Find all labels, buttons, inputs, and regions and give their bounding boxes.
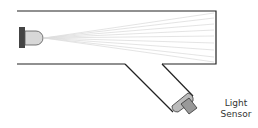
led-dome xyxy=(25,31,43,45)
label-line1: Light xyxy=(216,98,256,109)
light-beam xyxy=(44,13,214,62)
label-line2: Sensor xyxy=(216,109,256,120)
light-sensor xyxy=(172,93,197,114)
led-base xyxy=(19,27,25,48)
led-emitter xyxy=(19,27,43,48)
light-sensor-label: Light Sensor xyxy=(216,98,256,120)
